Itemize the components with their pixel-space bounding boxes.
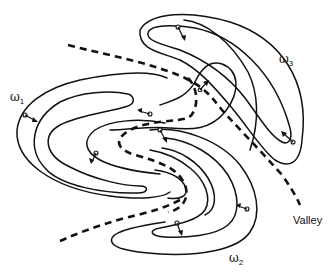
omega2-contours bbox=[112, 129, 257, 254]
arrow-marker-7 bbox=[158, 128, 167, 143]
middle-contour-2 bbox=[184, 20, 257, 150]
omega2-subscript: 2 bbox=[239, 258, 243, 267]
valley-line-lower bbox=[60, 200, 180, 241]
omega1-subscript: 1 bbox=[20, 97, 24, 106]
omega1-contours bbox=[17, 73, 170, 198]
arrow-marker-8 bbox=[236, 203, 249, 211]
omega2-symbol: ω bbox=[229, 251, 239, 265]
arrow-marker-1 bbox=[23, 113, 38, 122]
omega1-contour-inner bbox=[87, 120, 165, 174]
omega3-contours bbox=[140, 14, 303, 164]
omega1-symbol: ω bbox=[10, 90, 20, 104]
omega1-contour-outer bbox=[17, 73, 170, 198]
omega2-label: ω2 bbox=[229, 252, 243, 267]
valley-line-middle bbox=[119, 78, 196, 212]
omega3-symbol: ω bbox=[279, 52, 289, 66]
arrow-marker-2 bbox=[137, 108, 152, 116]
valley-label: Valley bbox=[293, 215, 322, 226]
omega3-label: ω3 bbox=[279, 53, 293, 68]
omega3-subscript: 3 bbox=[289, 59, 293, 68]
omega1-label: ω1 bbox=[10, 91, 24, 106]
contour-diagram bbox=[0, 0, 332, 272]
